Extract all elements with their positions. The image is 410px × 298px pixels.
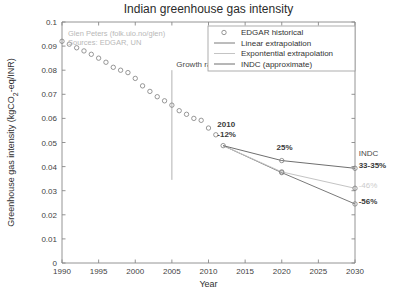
data-point-0-17 xyxy=(184,112,188,116)
x-axis-label: Year xyxy=(199,279,217,289)
x-tick-label: 1995 xyxy=(90,267,108,276)
y-tick-label: 0.07 xyxy=(41,90,57,99)
data-point-0-16 xyxy=(177,108,181,112)
data-point-0-9 xyxy=(126,70,130,74)
x-tick-label: 2015 xyxy=(236,267,254,276)
data-point-0-11 xyxy=(140,84,144,88)
chart-title: Indian greenhouse gas intensity xyxy=(124,2,293,16)
x-tick-label: 2025 xyxy=(309,267,327,276)
pct-2020-label: 25% xyxy=(277,143,293,152)
chart-figure: Indian greenhouse gas intensity199019952… xyxy=(0,0,410,298)
y-axis-label: Greenhouse gas intensity (kgCO2-eq/INR) xyxy=(6,58,19,227)
pct-lin-2030-label: -56% xyxy=(359,197,378,206)
data-point-0-13 xyxy=(155,95,159,99)
year-2010-label: 2010 xyxy=(217,120,235,129)
y-tick-label: 0 xyxy=(53,259,58,268)
legend-label-2: Expontential extrapolation xyxy=(241,49,333,58)
x-tick-label: 2005 xyxy=(163,267,181,276)
legend-label-3: INDC (approximate) xyxy=(241,60,312,69)
legend-label-0: EDGAR historical xyxy=(241,28,303,37)
y-tick-label: 0.06 xyxy=(41,114,57,123)
indc-label: INDC xyxy=(359,149,379,158)
data-point-0-3 xyxy=(82,49,86,53)
x-tick-label: 2000 xyxy=(126,267,144,276)
indc-range-label: 33-35% xyxy=(359,161,387,170)
data-point-0-4 xyxy=(89,52,93,56)
y-tick-label: 0.03 xyxy=(41,187,57,196)
y-tick-label: 0.09 xyxy=(41,42,57,51)
credit-line-0: Glen Peters (folk.uio.no/glen) xyxy=(68,29,166,38)
data-point-0-10 xyxy=(133,76,137,80)
x-tick-label: 1990 xyxy=(53,267,71,276)
data-point-0-5 xyxy=(96,56,100,60)
data-point-0-7 xyxy=(111,65,115,69)
y-tick-label: 0.05 xyxy=(41,139,57,148)
y-tick-label: 0.02 xyxy=(41,211,57,220)
data-point-0-14 xyxy=(162,99,166,103)
credit-line-1: Sources: EDGAR, UN xyxy=(68,38,141,47)
y-tick-label: 0.01 xyxy=(41,235,57,244)
pct-2010-label: -12% xyxy=(217,130,236,139)
x-tick-label: 2010 xyxy=(200,267,218,276)
data-point-0-20 xyxy=(206,126,210,130)
y-tick-label: 0.1 xyxy=(46,18,58,27)
data-point-0-12 xyxy=(148,89,152,93)
chart-svg: Indian greenhouse gas intensity199019952… xyxy=(0,0,410,298)
data-point-0-19 xyxy=(199,118,203,122)
x-tick-label: 2020 xyxy=(273,267,291,276)
data-point-0-6 xyxy=(104,60,108,64)
data-point-0-18 xyxy=(192,116,196,120)
legend-label-1: Linear extrapolation xyxy=(241,39,311,48)
y-tick-label: 0.08 xyxy=(41,66,57,75)
data-point-0-8 xyxy=(118,68,122,72)
x-tick-label: 2030 xyxy=(346,267,364,276)
y-tick-label: 0.04 xyxy=(41,163,57,172)
pct-exp-2030-label: -46% xyxy=(359,181,378,190)
